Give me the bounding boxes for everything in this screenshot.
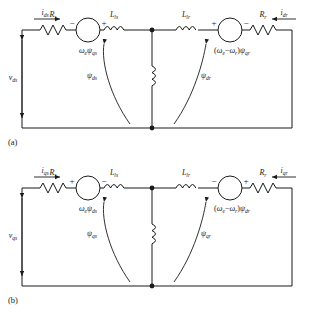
circuit-b-stator-leakage-inductor-label: Lls	[109, 168, 118, 178]
circuit-b-right-source-polarity-right: +	[243, 176, 248, 186]
circuit-a-bottom-node	[150, 126, 155, 131]
circuit-b-rotor-resistor-symbol	[250, 183, 276, 193]
circuit-b-caption: (b)	[8, 295, 18, 305]
circuit-b-rotor-resistor-label: Rr	[258, 168, 267, 178]
circuit-a-rotor-resistor-label: Rr	[258, 10, 267, 20]
circuit-a-left-source-expression: ωeψqs	[79, 46, 97, 56]
circuit-diagram-svg: − + + − Rs Lls Llr Rr ids idr vds ωeψq	[0, 0, 309, 321]
circuit-b-rotor-flux-label: ψqr	[201, 229, 212, 239]
circuit-b-stator-resistor-symbol	[40, 183, 66, 193]
circuit-b-stator-flux-pointer	[103, 202, 130, 282]
circuit-b-rotor-flux-pointer	[174, 202, 206, 282]
circuit-b-right-current-label: iqr	[280, 166, 288, 176]
circuit-b-left-source-polarity-right: −	[101, 176, 106, 186]
circuit-a-magnetizing-inductor-symbol	[152, 66, 156, 86]
circuit-a-terminal-voltage-label: vds	[9, 73, 18, 83]
circuit-b-rotor-leakage-inductor-label: Llr	[181, 168, 191, 178]
circuit-b-left-source-expression: ωeψds	[79, 204, 97, 214]
circuit-a-stator-flux-label: ψds	[87, 71, 97, 81]
circuit-a-left-current-label: ids	[41, 8, 48, 18]
circuit-a-caption: (a)	[8, 137, 18, 147]
circuit-b-left-source-polarity-left: +	[69, 176, 74, 186]
circuit-a-rotor-flux-label: ψdr	[201, 71, 212, 81]
circuit-a-right-source-symbol	[218, 18, 242, 42]
circuit-b-right-source-symbol	[218, 176, 242, 200]
circuit-a-left-source-polarity-right: +	[101, 18, 106, 28]
circuit-a: − + + − Rs Lls Llr Rr ids idr vds ωeψq	[8, 8, 296, 147]
circuit-b-left-source-symbol	[76, 176, 100, 200]
circuit-b-stator-leakage-inductor-symbol	[104, 185, 124, 189]
circuit-a-right-source-polarity-left: +	[211, 18, 216, 28]
circuit-a-rotor-leakage-inductor-symbol	[176, 27, 196, 31]
circuit-b-right-source-expression: (ωe−ωr)ψdr	[214, 204, 251, 214]
circuit-a-stator-leakage-inductor-label: Lls	[109, 10, 118, 20]
circuit-a-stator-resistor-label: Rs	[48, 10, 56, 20]
circuit-b-left-current-label: iqs	[41, 166, 48, 176]
circuit-b-right-source-polarity-left: −	[211, 176, 216, 186]
circuit-a-stator-flux-pointer	[103, 44, 130, 124]
circuit-a-right-current-label: idr	[280, 8, 288, 18]
circuit-a-rotor-leakage-inductor-label: Llr	[181, 10, 191, 20]
figure-canvas: − + + − Rs Lls Llr Rr ids idr vds ωeψq	[0, 0, 309, 321]
circuit-a-stator-resistor-symbol	[40, 25, 66, 35]
circuit-b-terminal-voltage-label: vqs	[9, 231, 18, 241]
circuit-a-left-source-symbol	[76, 18, 100, 42]
circuit-a-right-source-expression: (ωe−ωr)ψqr	[214, 46, 251, 56]
circuit-a-right-source-polarity-right: −	[243, 18, 248, 28]
circuit-b: + − − + Rs Lls Llr Rr iqs iqr vqs ωeψds …	[8, 166, 296, 305]
circuit-b-stator-resistor-label: Rs	[48, 168, 56, 178]
circuit-b-stator-flux-label: ψqs	[87, 229, 97, 239]
circuit-a-rotor-resistor-symbol	[250, 25, 276, 35]
circuit-b-magnetizing-inductor-symbol	[152, 224, 156, 244]
circuit-a-stator-leakage-inductor-symbol	[104, 27, 124, 31]
circuit-b-rotor-leakage-inductor-symbol	[176, 185, 196, 189]
circuit-a-left-source-polarity-left: −	[69, 18, 74, 28]
circuit-b-bottom-node	[150, 284, 155, 289]
circuit-a-rotor-flux-pointer	[174, 44, 206, 124]
